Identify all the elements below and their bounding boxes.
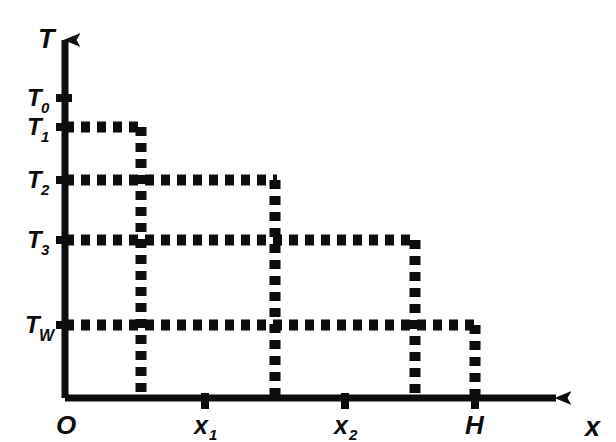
- x-tick-labels: O x 1 x 2 H: [56, 410, 485, 442]
- y-tick-label-T0-sub: 0: [41, 99, 50, 116]
- y-tick-label-T1-sub: 1: [41, 128, 49, 145]
- x-tick-label-x2: x 2: [332, 411, 358, 442]
- x-tick-label-x2-sub: 2: [348, 426, 358, 442]
- y-tick-label-T1: T 1: [27, 113, 49, 145]
- y-tick-label-TW-sub: W: [39, 327, 56, 344]
- y-tick-label-T3: T 3: [27, 226, 50, 258]
- interface-lines: [141, 127, 475, 400]
- axes-group: [65, 40, 556, 398]
- y-axis-label: T: [38, 24, 57, 54]
- x-tick-label-H: H: [465, 410, 485, 440]
- y-tick-label-TW: T W: [25, 311, 56, 344]
- temperature-profile-diagram: T x T 0 T 1 T 2 T 3 T W: [0, 0, 616, 442]
- x-tick-label-x2-base: x: [332, 411, 349, 439]
- origin-label: O: [56, 410, 76, 440]
- plot-canvas: T x T 0 T 1 T 2 T 3 T W: [0, 0, 616, 442]
- y-tick-label-T2-sub: 2: [40, 181, 50, 198]
- x-axis-label: x: [583, 412, 601, 442]
- y-tick-label-T0: T 0: [27, 84, 50, 116]
- x-tick-label-x1-sub: 1: [209, 426, 217, 442]
- x-tick-label-x1: x 1: [192, 411, 217, 442]
- y-tick-labels: T 0 T 1 T 2 T 3 T W: [25, 84, 56, 344]
- y-tick-label-T2: T 2: [27, 166, 50, 198]
- y-tick-label-T3-sub: 3: [41, 241, 50, 258]
- x-tick-label-x1-base: x: [192, 411, 209, 439]
